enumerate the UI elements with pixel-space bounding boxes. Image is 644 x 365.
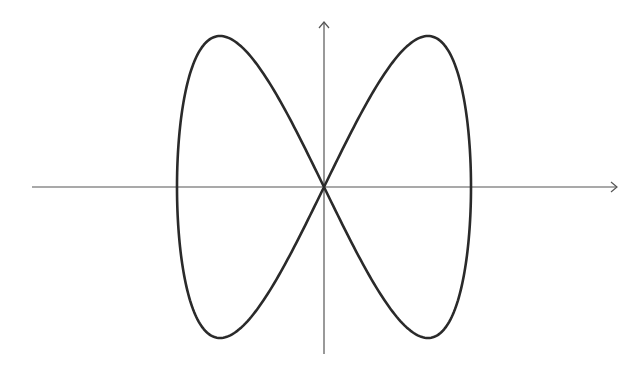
figure-canvas [0,0,644,365]
lissajous-figure [0,0,644,365]
